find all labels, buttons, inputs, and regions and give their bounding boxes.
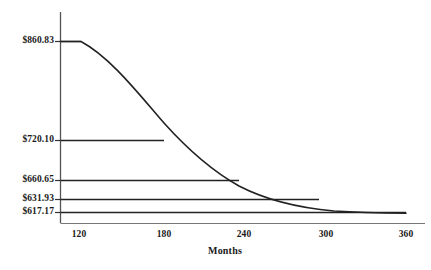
level-lines bbox=[61, 42, 407, 213]
x-axis-label-180: 180 bbox=[144, 229, 184, 239]
y-axis-label-860: $860.83 bbox=[6, 35, 54, 45]
x-axis-label-240: 240 bbox=[224, 229, 264, 239]
x-axis-label-300: 300 bbox=[306, 229, 346, 239]
y-axis-label-660: $660.65 bbox=[6, 174, 54, 184]
y-axis-label-617: $617.17 bbox=[6, 206, 54, 216]
amortization-chart: $860.83 $720.10 $660.65 $631.93 $617.17 … bbox=[0, 0, 431, 270]
y-tick-marks bbox=[55, 42, 61, 213]
balance-curve bbox=[61, 42, 407, 214]
x-axis-label-120: 120 bbox=[59, 229, 99, 239]
x-axis-label-360: 360 bbox=[386, 229, 426, 239]
x-axis-title: Months bbox=[185, 245, 265, 256]
y-axis-label-631: $631.93 bbox=[6, 193, 54, 203]
y-axis-label-720: $720.10 bbox=[6, 134, 54, 144]
